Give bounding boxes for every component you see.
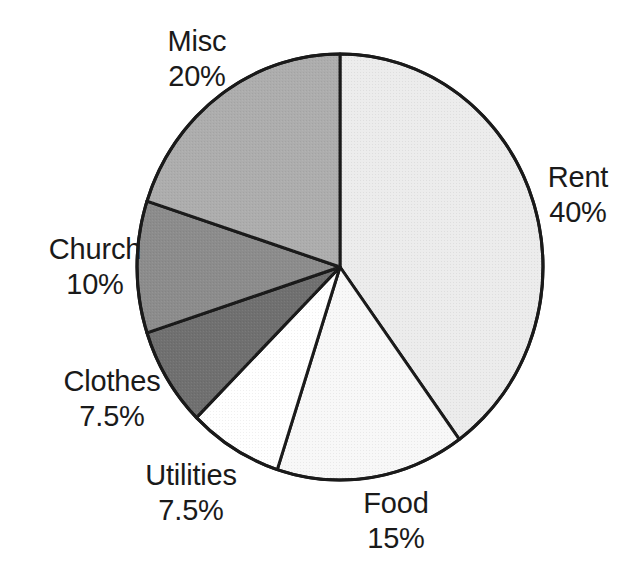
slice-label-utilities-name: Utilities (112, 458, 270, 493)
slice-label-misc-name: Misc (122, 24, 272, 59)
slice-label-misc-value: 20% (122, 59, 272, 94)
slice-label-clothes-value: 7.5% (36, 399, 188, 434)
slice-label-church-name: Church (18, 232, 172, 267)
slice-label-rent: Rent 40% (524, 160, 632, 231)
pie-chart: Rent 40% Food 15% Utilities 7.5% Clothes… (0, 0, 632, 583)
slice-label-clothes-name: Clothes (36, 364, 188, 399)
slice-label-utilities: Utilities 7.5% (112, 458, 270, 529)
slice-label-church: Church 10% (18, 232, 172, 303)
slice-label-clothes: Clothes 7.5% (36, 364, 188, 435)
slice-label-food: Food 15% (330, 486, 462, 557)
slice-label-rent-name: Rent (524, 160, 632, 195)
slice-label-misc: Misc 20% (122, 24, 272, 95)
slice-label-food-name: Food (330, 486, 462, 521)
slice-label-food-value: 15% (330, 521, 462, 556)
slice-label-utilities-value: 7.5% (112, 493, 270, 528)
slice-label-rent-value: 40% (524, 195, 632, 230)
slice-label-church-value: 10% (18, 267, 172, 302)
